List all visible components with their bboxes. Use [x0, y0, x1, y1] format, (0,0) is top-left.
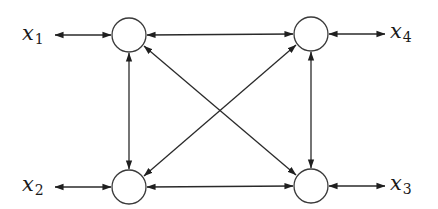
- label-x1: x1: [22, 21, 44, 47]
- label-x2: x2: [22, 172, 44, 198]
- node-1: [112, 18, 146, 52]
- node-4: [294, 17, 328, 51]
- label-x2-sub: 2: [35, 182, 44, 198]
- network-diagram: x1 x2 x4 x3: [0, 0, 438, 209]
- node-3: [294, 169, 328, 203]
- label-x2-base: x: [22, 172, 34, 196]
- label-x1-base: x: [22, 21, 34, 45]
- label-x1-sub: 1: [35, 31, 44, 47]
- edge-n2-n3: [147, 186, 293, 187]
- label-x4-base: x: [390, 19, 402, 43]
- node-2: [112, 170, 146, 204]
- label-x3-base: x: [390, 171, 402, 195]
- label-x3-sub: 3: [403, 181, 412, 197]
- label-x3: x3: [390, 171, 412, 197]
- label-x4-sub: 4: [403, 29, 412, 45]
- label-x4: x4: [390, 19, 412, 45]
- edge-n1-n4: [147, 34, 293, 35]
